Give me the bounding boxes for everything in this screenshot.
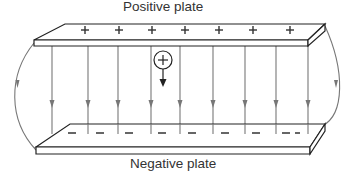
negative-plate-label: Negative plate xyxy=(130,156,216,171)
electric-field-diagram: Positive plate xyxy=(0,0,345,179)
positive-plate xyxy=(34,24,325,46)
diagram-graphic xyxy=(0,0,345,179)
test-charge xyxy=(154,51,172,87)
field-lines xyxy=(50,46,311,134)
